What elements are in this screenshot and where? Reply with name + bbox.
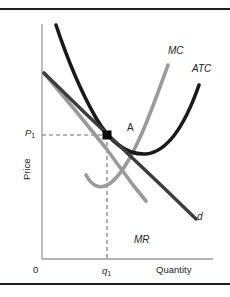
equilibrium-point-label: A [127, 123, 134, 133]
x-axis-label: Quantity [156, 265, 191, 275]
mc-curve-label: MC [168, 46, 184, 56]
quantity-tick-q1: q1 [102, 266, 111, 276]
chart-plot-area [0, 0, 230, 297]
price-tick-p1-subscript: 1 [31, 132, 35, 139]
mr-curve [44, 73, 146, 201]
price-tick-p1: P1 [25, 128, 35, 138]
figure-container: MC ATC MR d A P1 q1 0 Quantity Price [0, 0, 230, 297]
equilibrium-point-marker [103, 131, 112, 140]
origin-label: 0 [33, 265, 38, 275]
y-axis-label: Price [22, 158, 32, 180]
atc-curve-label: ATC [192, 64, 211, 74]
quantity-tick-q1-subscript: 1 [107, 270, 111, 277]
mr-curve-label: MR [134, 235, 150, 245]
demand-curve-label: d [197, 212, 203, 222]
demand-curve [44, 73, 196, 219]
